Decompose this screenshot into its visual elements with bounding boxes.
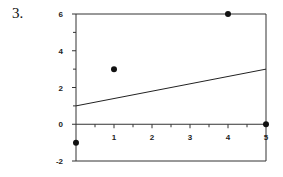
y-tick-label: 0	[59, 120, 64, 129]
x-tick-label: 5	[264, 133, 269, 142]
x-tick-label: 4	[226, 133, 231, 142]
data-point	[111, 66, 117, 72]
data-point	[225, 11, 231, 17]
x-tick-label: 2	[150, 133, 155, 142]
y-tick-label: 4	[59, 47, 64, 56]
tick-labels: -2024612345	[56, 10, 269, 166]
fitted-line	[76, 69, 266, 106]
scatter-chart: -2024612345	[0, 0, 283, 177]
x-tick-label: 3	[188, 133, 193, 142]
axis-ticks	[72, 14, 247, 161]
data-point	[73, 140, 79, 146]
regression-line	[76, 69, 266, 106]
y-tick-label: 6	[59, 10, 64, 19]
data-point	[263, 121, 269, 127]
y-tick-label: 2	[59, 84, 64, 93]
y-tick-label: -2	[56, 157, 64, 166]
x-tick-label: 1	[112, 133, 117, 142]
